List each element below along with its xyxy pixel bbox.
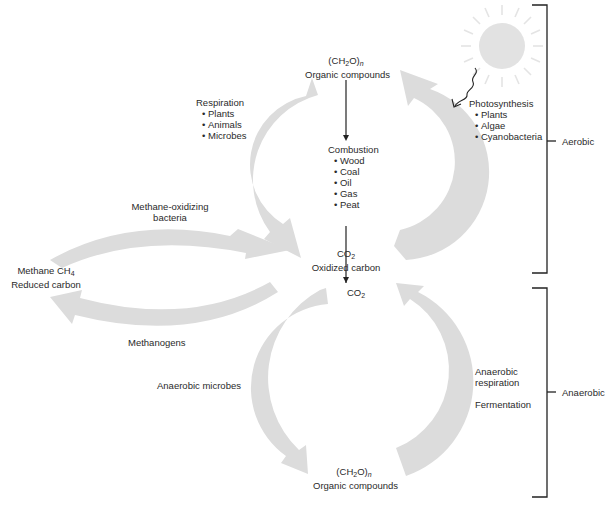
node-label: Organic compounds (305, 69, 387, 80)
anaerobic-microbes-arrow (251, 288, 328, 474)
aerobic-label: Aerobic (562, 136, 594, 147)
list-item: Microbes (199, 130, 247, 141)
methane-oxidizing-bacteria-label: Methane-oxidizing bacteria (120, 201, 220, 223)
anaerobic-microbes-label: Anaerobic microbes (157, 380, 241, 391)
anaerobic-respiration-arrow (396, 283, 473, 476)
methane-oxidation-arrow (50, 229, 290, 268)
formula: (CH2O)n (313, 466, 395, 480)
list-item: Cyanobacteria (472, 131, 542, 142)
fermentation-label: Fermentation (475, 399, 531, 410)
formula: (CH2O)n (305, 55, 387, 69)
list-item: Coal (331, 166, 379, 177)
photosynthesis-label: Photosynthesis Plants Algae Cyanobacteri… (469, 98, 542, 142)
list-item: Algae (472, 120, 542, 131)
list-item: Peat (331, 199, 379, 210)
methanogens-label: Methanogens (128, 337, 186, 348)
anaerobic-respiration-label: Anaerobic respiration Fermentation (475, 366, 531, 410)
node-label: Oxidized carbon (305, 262, 387, 273)
list-item: Gas (331, 188, 379, 199)
anaerobic-label: Anaerobic (562, 387, 605, 398)
list-item: Plants (472, 109, 542, 120)
anaerobic-co2-node: CO2 (340, 287, 372, 301)
oxidized-carbon-node: CO2 Oxidized carbon (305, 248, 387, 273)
respiration-label: Respiration Plants Animals Microbes (196, 97, 247, 141)
anaerobic-organic-compounds-node: (CH2O)n Organic compounds (313, 466, 395, 491)
respiration-arrow (250, 78, 318, 258)
sun-icon (461, 5, 543, 87)
aerobic-organic-compounds-node: (CH2O)n Organic compounds (305, 55, 387, 80)
anaerobic-bracket (532, 288, 556, 497)
combustion-in-arrow (343, 80, 349, 141)
node-label: Organic compounds (313, 480, 395, 491)
list-item: Oil (331, 177, 379, 188)
list-item: Animals (199, 119, 247, 130)
list-item: Plants (199, 108, 247, 119)
methane-node: Methane CH4 Reduced carbon (6, 265, 86, 290)
formula: CO2 (305, 248, 387, 262)
list-item: Wood (331, 155, 379, 166)
combustion-label: Combustion Wood Coal Oil Gas Peat (328, 144, 379, 210)
